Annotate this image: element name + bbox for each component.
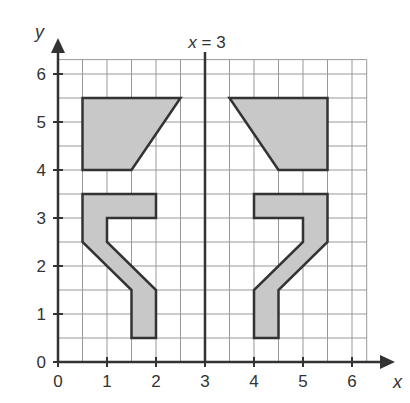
y-tick-label: 0 [37, 353, 46, 372]
y-axis-label: y [33, 22, 45, 42]
y-tick-label: 2 [37, 257, 46, 276]
x-tick-label: 1 [102, 372, 111, 391]
x-tick-label: 0 [53, 372, 62, 391]
right-trapezoid [230, 98, 328, 170]
x-axis-arrow-icon [380, 355, 395, 369]
x-tick-label: 3 [200, 372, 209, 391]
x-tick-label: 2 [151, 372, 160, 391]
y-axis-arrow-icon [51, 38, 65, 53]
y-tick-label: 4 [37, 161, 46, 180]
y-tick-label: 5 [37, 113, 46, 132]
x-axis-label: x [392, 372, 403, 392]
mirror-line-label: x = 3 [187, 33, 225, 52]
left-trapezoid [83, 98, 181, 170]
x-tick-label: 5 [298, 372, 307, 391]
y-tick-label: 6 [37, 65, 46, 84]
coordinate-grid-diagram: 01234560123456 x = 3 x y [0, 0, 410, 403]
x-tick-label: 4 [249, 372, 258, 391]
y-tick-label: 1 [37, 305, 46, 324]
y-tick-label: 3 [37, 209, 46, 228]
x-tick-label: 6 [347, 372, 356, 391]
